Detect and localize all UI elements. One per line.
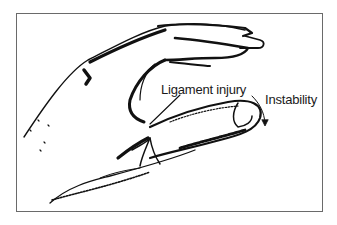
instability-label: Instability (265, 92, 317, 107)
ligament-injury-label: Ligament injury (161, 82, 246, 97)
hand-illustration (0, 0, 337, 225)
